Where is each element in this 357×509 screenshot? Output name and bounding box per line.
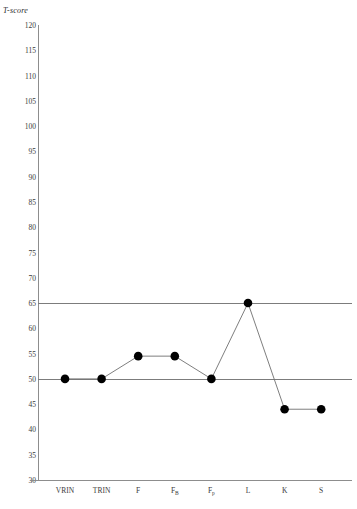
x-tick-F: F (136, 486, 140, 495)
data-point-TRIN (97, 375, 106, 384)
x-tick-S: S (319, 486, 323, 495)
data-point-VRIN (61, 375, 70, 384)
validity-scale-profile-chart: T-score 30354045505560657075808590951001… (0, 0, 357, 509)
x-tick-FB: FB (171, 486, 179, 495)
x-tick-VRIN: VRIN (56, 486, 74, 495)
data-series-plot (0, 0, 357, 509)
data-point-Fp (207, 375, 216, 384)
data-point-FB (171, 352, 180, 361)
x-tick-Fp: Fp (208, 486, 215, 495)
data-point-L (244, 299, 253, 308)
series-line (65, 303, 321, 409)
data-point-K (280, 405, 289, 414)
x-tick-L: L (246, 486, 251, 495)
data-point-F (134, 352, 143, 361)
x-tick-K: K (282, 486, 287, 495)
x-tick-TRIN: TRIN (93, 486, 111, 495)
data-point-S (317, 405, 326, 414)
